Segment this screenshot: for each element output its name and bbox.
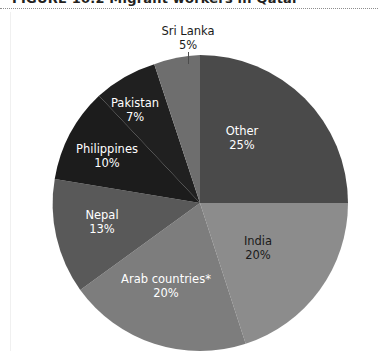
pie-label-other-name: Other [196, 124, 288, 138]
pie-label-arab-countries: Arab countries* 20% [92, 272, 240, 300]
pie-label-sri-lanka-name: Sri Lanka [134, 24, 242, 38]
pie-label-sri-lanka: Sri Lanka 5% [134, 24, 242, 52]
pie-label-arab-countries-name: Arab countries* [92, 272, 240, 286]
pie-chart: Sri Lanka 5% Pakistan 7% Philippines 10%… [0, 0, 378, 351]
pie-label-india-name: India [218, 234, 298, 248]
pie-label-nepal-value: 13% [54, 222, 150, 236]
pie-label-pakistan-name: Pakistan [86, 96, 184, 110]
figure-page: FIGURE 10.2 Migrant workers in Qatar Sri… [0, 0, 378, 351]
pie-label-pakistan: Pakistan 7% [86, 96, 184, 124]
pie-label-nepal-name: Nepal [54, 208, 150, 222]
pie-label-other: Other 25% [196, 124, 288, 152]
sri-lanka-leader-line [188, 52, 189, 64]
pie-label-nepal: Nepal 13% [54, 208, 150, 236]
pie-label-arab-countries-value: 20% [92, 286, 240, 300]
pie-label-pakistan-value: 7% [86, 110, 184, 124]
pie-label-other-value: 25% [196, 138, 288, 152]
pie-label-philippines-name: Philippines [48, 142, 166, 156]
pie-label-india: India 20% [218, 234, 298, 262]
pie-label-sri-lanka-value: 5% [134, 38, 242, 52]
pie-label-philippines: Philippines 10% [48, 142, 166, 170]
pie-label-india-value: 20% [218, 248, 298, 262]
pie-label-philippines-value: 10% [48, 156, 166, 170]
